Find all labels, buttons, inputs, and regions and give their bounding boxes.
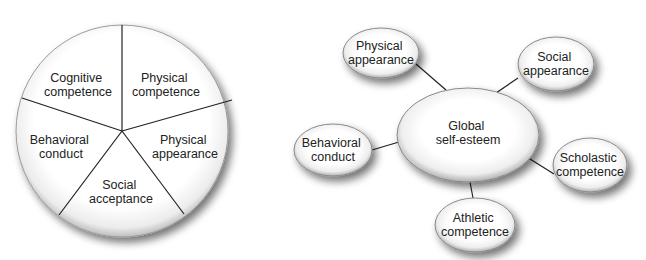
node-behavioral-conduct: Behavioral conduct bbox=[294, 124, 372, 176]
connector-social-appearance bbox=[496, 78, 518, 93]
connector-behavioral-conduct bbox=[372, 142, 399, 150]
connector-physical-appearance bbox=[416, 64, 446, 90]
connector-athletic-competence bbox=[470, 182, 473, 198]
pie-diagram: Cognitive competence Physical competence… bbox=[16, 25, 232, 237]
hub-diagram: Global self-esteem Physical appearance S… bbox=[294, 28, 627, 252]
connector-scholastic-competence bbox=[530, 159, 554, 174]
node-athletic-competence: Athletic competence bbox=[435, 198, 515, 252]
segment-physical-appearance: Physical appearance bbox=[152, 133, 218, 161]
node-social-appearance: Social appearance bbox=[518, 37, 594, 91]
segment-physical-competence: Physical competence bbox=[132, 71, 200, 99]
svg-text:Physical appearance: Physical appearance bbox=[348, 39, 414, 67]
segment-cognitive-competence: Cognitive competence bbox=[44, 71, 112, 99]
node-global-self-esteem: Global self-esteem bbox=[397, 88, 539, 182]
svg-text:Scholastic competence: Scholastic competence bbox=[556, 151, 624, 179]
node-scholastic-competence: Scholastic competence bbox=[553, 138, 627, 192]
diagram-canvas: Cognitive competence Physical competence… bbox=[0, 0, 646, 260]
node-physical-appearance: Physical appearance bbox=[343, 28, 419, 78]
